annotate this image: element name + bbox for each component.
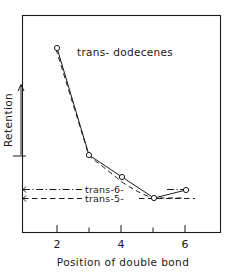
x-axis-ticks bbox=[57, 225, 185, 232]
data-point-marker bbox=[183, 187, 188, 192]
x-tick-label-6: 6 bbox=[182, 238, 189, 251]
chart-figure: 2 4 6 Position of double bond Retention … bbox=[0, 0, 232, 277]
x-tick-label-4: 4 bbox=[118, 238, 125, 251]
data-point-marker bbox=[119, 174, 124, 179]
plot-title-annotation: trans- dodecenes bbox=[77, 46, 173, 58]
x-axis-title: Position of double bond bbox=[57, 256, 189, 268]
y-axis-arrow bbox=[13, 85, 26, 157]
chart-canvas: 2 4 6 Position of double bond Retention … bbox=[0, 0, 232, 277]
data-point-marker bbox=[151, 195, 156, 200]
data-point-marker bbox=[54, 45, 59, 50]
series-solid-markers bbox=[54, 45, 188, 200]
x-tick-label-2: 2 bbox=[54, 238, 61, 251]
y-axis-title: Retention bbox=[2, 93, 14, 147]
reference-label-trans-5: trans-5- bbox=[85, 193, 124, 204]
data-point-marker bbox=[86, 152, 91, 157]
